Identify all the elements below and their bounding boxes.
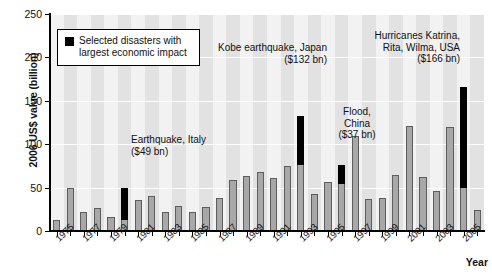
y-tick-label: 250 <box>24 8 42 20</box>
y-tick-mark <box>45 144 50 145</box>
annotation-katrina-line1: Hurricanes Katrina, <box>374 30 460 41</box>
annotation-katrina-line2: Rita, Wilma, USA <box>383 42 460 53</box>
annotation-earthquake-italy: Earthquake, Italy($49 bn) <box>131 134 206 157</box>
y-tick-mark <box>45 188 50 189</box>
y-tick-label: 0 <box>36 225 42 237</box>
bar-chart: 2006 US$ value (billion) 050100150200250… <box>0 0 492 279</box>
annotation-hurricanes-katrina: Hurricanes Katrina,Rita, Wilma, USA($166… <box>338 30 460 65</box>
y-tick-mark <box>45 57 50 58</box>
annotation-flood-line1: Flood, <box>343 106 371 117</box>
annotation-italy-line2: ($49 bn) <box>131 146 168 157</box>
legend-item: Selected disasters withlargest economic … <box>65 35 192 59</box>
y-tick-mark <box>45 231 50 232</box>
legend-swatch-highlight <box>65 37 74 46</box>
legend: Selected disasters withlargest economic … <box>57 29 200 66</box>
legend-label: Selected disasters withlargest economic … <box>79 35 187 59</box>
annotation-kobe-line1: Kobe earthquake, Japan <box>218 42 327 53</box>
annotation-katrina-line3: ($166 bn) <box>417 53 460 64</box>
y-tick-label: 150 <box>24 95 42 107</box>
legend-label-line2: largest economic impact <box>79 47 187 58</box>
y-tick-label: 100 <box>24 138 42 150</box>
y-tick-mark <box>45 14 50 15</box>
y-tick-label: 50 <box>30 182 42 194</box>
annotation-flood-china: Flood,China($37 bn) <box>327 106 387 141</box>
annotation-flood-line2: China <box>344 118 370 129</box>
annotation-kobe-line2: ($132 bn) <box>284 54 327 65</box>
y-tick-label: 200 <box>24 51 42 63</box>
legend-label-line1: Selected disasters with <box>79 35 181 46</box>
y-tick-mark <box>45 101 50 102</box>
annotation-kobe-earthquake: Kobe earthquake, Japan($132 bn) <box>185 42 327 65</box>
annotation-italy-line1: Earthquake, Italy <box>131 134 206 145</box>
annotation-flood-line3: ($37 bn) <box>338 129 375 140</box>
x-axis-title: Year <box>466 256 488 268</box>
